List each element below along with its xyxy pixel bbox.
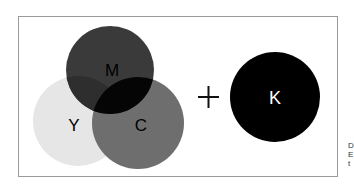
- label-y: Y: [68, 116, 79, 135]
- label-m: M: [105, 61, 119, 80]
- plus-icon: [198, 86, 219, 108]
- side-text-2: E: [348, 150, 353, 159]
- label-k: K: [269, 88, 281, 108]
- side-text-3: t: [348, 159, 350, 168]
- label-c: C: [135, 116, 147, 135]
- side-text-1: D: [348, 141, 354, 150]
